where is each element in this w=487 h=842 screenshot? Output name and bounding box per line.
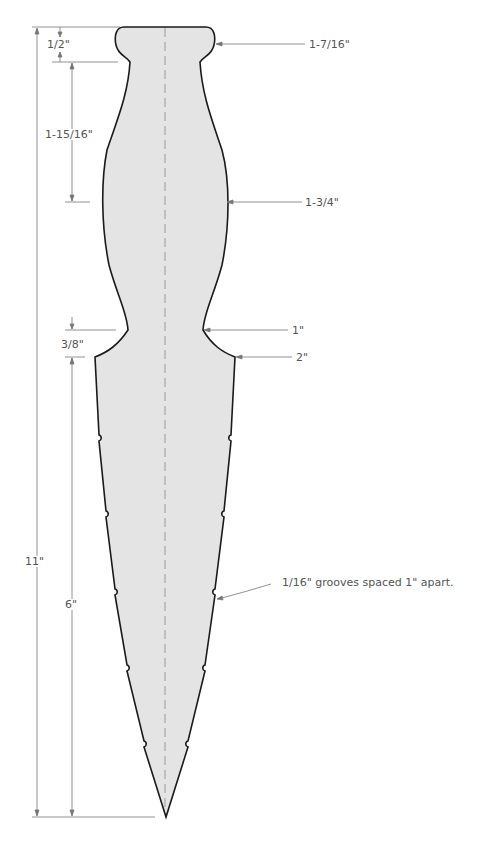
pommel-height-label: 1/2" [47, 39, 70, 50]
grooves-leader [218, 584, 271, 599]
upper-grip-length-label: 1-15/16" [45, 129, 93, 140]
diagram-drawing [0, 0, 487, 842]
grooves-note: 1/16" grooves spaced 1" apart. [282, 577, 454, 588]
pommel-width-label: 1-7/16" [309, 39, 350, 50]
waist-width-label: 1" [292, 325, 304, 336]
dagger-template-diagram: 1/2" 1-7/16" 1-15/16" 1-3/4" 1" 3/8" 2" … [0, 0, 487, 842]
guard-transition-label: 3/8" [61, 339, 84, 350]
overall-length-label: 11" [25, 556, 44, 567]
grip-width-label: 1-3/4" [305, 197, 339, 208]
blade-base-width-label: 2" [296, 352, 308, 363]
blade-length-label: 6" [65, 599, 77, 610]
